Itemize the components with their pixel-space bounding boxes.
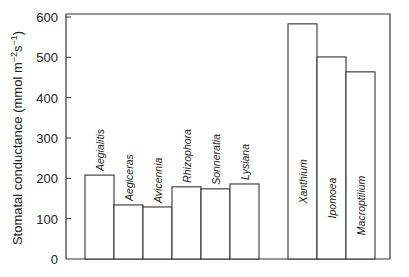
bar-label-rhizophora: Rhizophora: [181, 129, 193, 183]
bar-rhizophora: [172, 187, 201, 259]
y-tick-label: 600: [36, 10, 58, 25]
y-tick-label: 400: [36, 91, 58, 106]
bar-label-sonneratia: Sonneratia: [210, 134, 222, 185]
bar-ipomoea: [317, 57, 346, 259]
y-tick-label: 500: [36, 50, 58, 65]
y-tick-label: 300: [36, 131, 58, 146]
bar-label-ipomoea: Ipomoea: [326, 177, 338, 218]
bar-aegiceras: [114, 205, 143, 259]
y-tick-label: 0: [51, 252, 58, 267]
bars: [85, 24, 375, 259]
bar-label-aegiceras: Aegiceras: [123, 154, 135, 202]
bar-label-macroptilium: Macroptilium: [355, 175, 367, 235]
bar-label-aegialitis: Aegialitis: [94, 128, 106, 172]
bar-sonneratia: [201, 189, 230, 259]
bar-avicennia: [143, 207, 172, 259]
bar-lysiana: [230, 184, 259, 259]
bar-label-lysiana: Lysiana: [239, 144, 251, 180]
bar-aegialitis: [85, 175, 114, 259]
y-tick-label: 200: [36, 171, 58, 186]
bar-label-xanthium: Xanthium: [297, 159, 309, 205]
bar-label-avicennia: Avicennia: [152, 157, 164, 203]
bar-chart: 0100200300400500600 AegialitisAegicerasA…: [0, 0, 409, 277]
y-axis-label: Stomatal conductance (mmol m−2s−1): [9, 31, 25, 245]
y-tick-label: 100: [36, 212, 58, 227]
bar-xanthium: [288, 24, 317, 259]
